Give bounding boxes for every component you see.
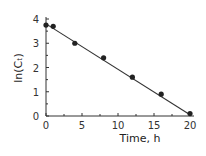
x-tick-label: 10 [112, 120, 125, 131]
data-point [187, 111, 192, 116]
x-axis-title: Time, h [119, 132, 161, 145]
data-point [51, 24, 56, 29]
fit-line [46, 24, 190, 115]
y-tick-label: 3 [33, 38, 39, 49]
data-point [159, 92, 164, 97]
y-tick-label: 2 [33, 63, 39, 74]
data-point [130, 75, 135, 80]
x-tick-label: 5 [79, 120, 85, 131]
y-tick-label: 0 [33, 111, 39, 122]
chart: 0510152001234 Time, h ln(Cₜ) [0, 0, 206, 156]
x-tick-label: 20 [184, 120, 197, 131]
y-axis-title: ln(Cₜ) [12, 53, 25, 83]
plot-area: 0510152001234 [33, 14, 197, 131]
x-tick-label: 15 [148, 120, 161, 131]
data-point [72, 41, 77, 46]
data-point [101, 55, 106, 60]
x-tick-label: 0 [43, 120, 49, 131]
y-tick-label: 4 [33, 14, 39, 25]
data-point [43, 22, 48, 27]
y-tick-label: 1 [33, 87, 39, 98]
